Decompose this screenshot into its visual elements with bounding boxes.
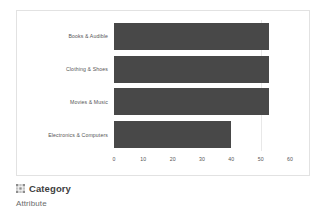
bar-electronics-and-computers[interactable] <box>114 121 231 148</box>
category-label: Movies & Music <box>17 86 112 119</box>
legend-row: Category <box>16 182 310 194</box>
bar-movies-and-music[interactable] <box>114 88 269 115</box>
bar-slot <box>114 86 290 119</box>
category-label: Books & Audible <box>17 20 112 53</box>
bar-clothing-and-shoes[interactable] <box>114 56 269 83</box>
x-axis: 0 10 20 30 40 50 60 <box>114 152 290 166</box>
bar-slot <box>114 118 290 151</box>
x-tick-label: 10 <box>140 156 146 162</box>
bar-slot <box>114 20 290 53</box>
legend-subtitle: Attribute <box>16 199 310 209</box>
x-tick-label: 40 <box>228 156 234 162</box>
chart-footer: Category Attribute <box>16 182 310 209</box>
x-tick-label: 0 <box>113 156 116 162</box>
bar-slot <box>114 53 290 86</box>
x-tick-label: 50 <box>258 156 264 162</box>
chart-card: Books & Audible Clothing & Shoes Movies … <box>16 10 310 176</box>
bar-chart: Books & Audible Clothing & Shoes Movies … <box>17 11 309 175</box>
x-tick-label: 60 <box>287 156 293 162</box>
category-axis-labels: Books & Audible Clothing & Shoes Movies … <box>17 20 112 151</box>
x-tick-label: 20 <box>170 156 176 162</box>
plot-area <box>114 20 290 151</box>
legend-title: Category <box>29 183 71 194</box>
category-label: Clothing & Shoes <box>17 53 112 86</box>
category-label: Electronics & Computers <box>17 118 112 151</box>
bar-series <box>114 20 290 151</box>
bar-books-and-audible[interactable] <box>114 23 269 50</box>
x-tick-label: 30 <box>199 156 205 162</box>
grid-icon <box>16 184 25 193</box>
